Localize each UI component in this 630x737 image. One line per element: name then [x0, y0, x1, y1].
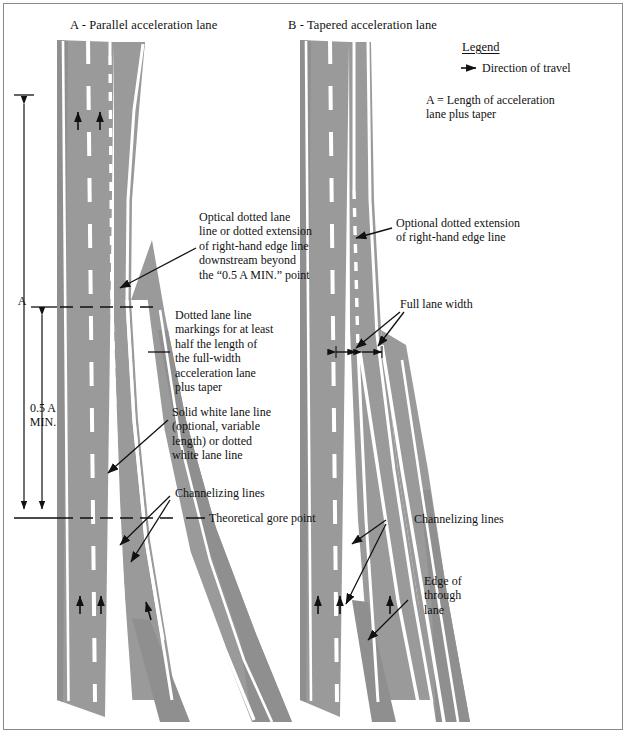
note-full-lane-width: Full lane width [400, 297, 530, 311]
dimension-label-half-a: 0.5 A MIN. [22, 402, 64, 429]
legend-a-definition: A = Length of acceleration lane plus tap… [426, 93, 616, 122]
note-optical-dotted-lane-line: Optical dotted lane line or dotted exten… [199, 210, 335, 282]
legend-direction-label: Direction of travel [482, 61, 622, 75]
note-channelizing-lines-a: Channelizing lines [175, 486, 305, 500]
panel-b-pavement [300, 40, 470, 722]
note-edge-of-through-lane: Edge of through lane [424, 574, 504, 617]
note-theoretical-gore-point: Theoretical gore point [209, 511, 359, 525]
figure-stage: A - Parallel acceleration lane B - Taper… [0, 0, 630, 737]
note-optional-dotted-extension: Optional dotted extension of right-hand … [396, 216, 556, 245]
dimension-label-a: A [8, 295, 36, 309]
legend-title: Legend [462, 40, 499, 55]
note-channelizing-lines-b: Channelizing lines [414, 512, 544, 526]
note-solid-white-lane-line: Solid white lane line (optional, variabl… [172, 405, 312, 463]
note-dotted-lane-line-markings: Dotted lane line markings for at least h… [175, 308, 315, 394]
